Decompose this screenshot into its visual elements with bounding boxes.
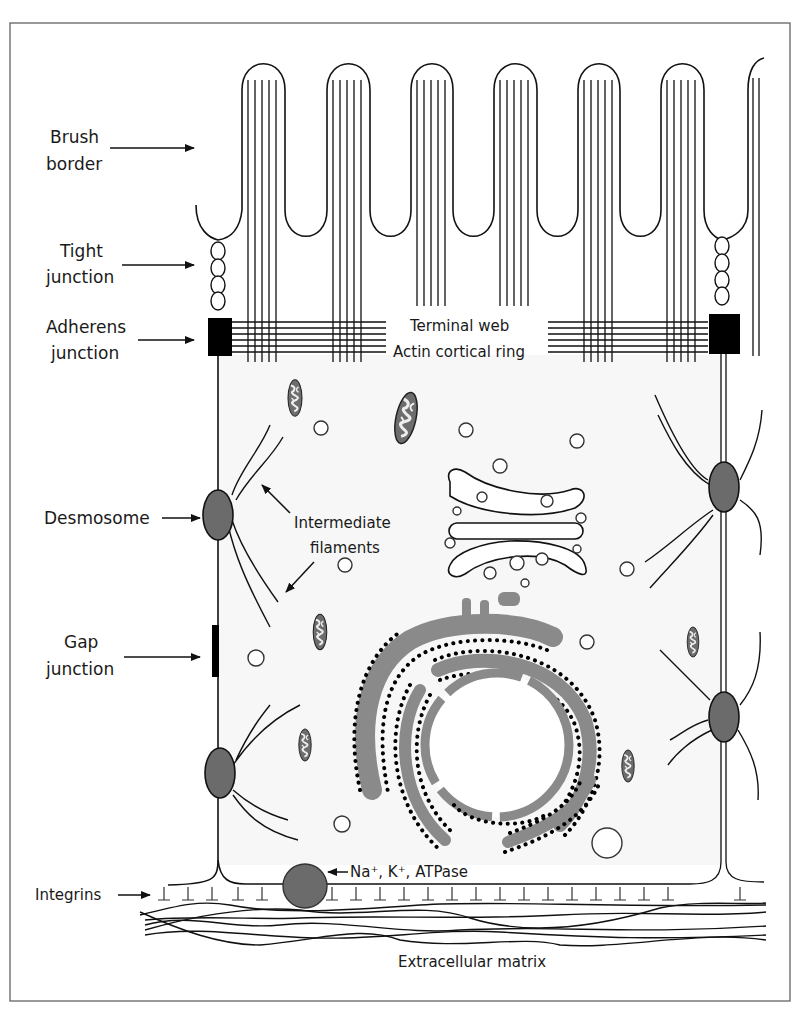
nucleus: [425, 673, 569, 817]
label-integrins: Integrins: [35, 886, 101, 904]
integrins: [158, 887, 746, 900]
label-tight-junction-line2: junction: [45, 267, 114, 287]
label-desmosome: Desmosome: [44, 508, 150, 528]
label-gap-junction-line1: Gap: [64, 632, 98, 652]
adherens-junction-left: [208, 318, 232, 356]
label-actin-cortical-ring: Actin cortical ring: [393, 343, 525, 361]
label-na-k-atpase: Na⁺, K⁺, ATPase: [350, 863, 468, 881]
label-extracellular-matrix: Extracellular matrix: [398, 953, 546, 971]
na-k-atpase: [283, 864, 327, 908]
gap-junction: [212, 625, 219, 677]
brush-border-membrane: [196, 58, 764, 240]
epithelial-cell-diagram: Brush border Tight junction Adherens jun…: [0, 0, 802, 1012]
label-brush-border-line1: Brush: [50, 127, 99, 147]
mitochondrion: [313, 614, 327, 649]
tight-junction-right: [715, 237, 729, 305]
mitochondrion: [622, 750, 634, 782]
label-terminal-web: Terminal web: [409, 317, 509, 335]
label-adherens-junction-line1: Adherens: [46, 317, 126, 337]
mitochondrion: [288, 380, 302, 416]
adherens-junction-right: [709, 314, 740, 354]
label-adherens-junction-line2: junction: [50, 343, 119, 363]
extracellular-matrix-fibers: [140, 903, 766, 946]
mitochondrion: [687, 627, 699, 657]
label-intermediate-filaments-line2: filaments: [310, 539, 380, 557]
label-brush-border-line2: border: [46, 154, 102, 174]
label-gap-junction-line2: junction: [45, 659, 114, 679]
mitochondrion: [299, 729, 311, 761]
label-intermediate-filaments-line1: Intermediate: [294, 514, 391, 532]
tight-junction-left: [211, 242, 225, 310]
lateral-membrane-left: [168, 356, 218, 885]
label-tight-junction-line1: Tight: [59, 241, 103, 261]
